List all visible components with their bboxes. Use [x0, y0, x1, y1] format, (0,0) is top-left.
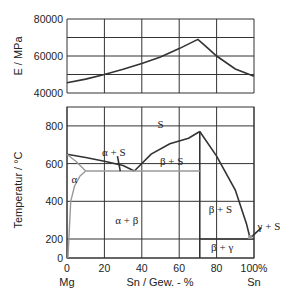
phase-region-label: γ + S	[257, 220, 281, 232]
phase-region-label: β + S	[160, 155, 183, 167]
x-tick-label: 80	[211, 262, 223, 274]
chart-canvas: 400006000080000 020406080100%02004006008…	[0, 0, 289, 305]
y-tick-label: 80000	[34, 13, 63, 25]
y-axis-label-temperature: Temperatur / °C	[12, 151, 24, 228]
y-tick-label: 60000	[34, 50, 63, 62]
phase-region-label: α + S	[102, 146, 126, 158]
phase-region-label: α	[72, 173, 78, 185]
y-tick-label: 200	[45, 233, 63, 245]
modulus-plot: 400006000080000	[34, 13, 254, 99]
y-tick-label: 400	[45, 195, 63, 207]
x-tick-label: 60	[173, 262, 185, 274]
x-tick-label: 100%	[241, 262, 268, 274]
liquidus-right-line	[200, 132, 250, 239]
x-axis-left-element-label: Mg	[59, 276, 74, 288]
x-tick-label: 40	[136, 262, 148, 274]
phase-region-label: β + S	[209, 203, 232, 215]
y-tick-label: 0	[57, 252, 63, 264]
x-tick-label: 0	[64, 262, 70, 274]
x-axis-right-element-label: Sn	[247, 276, 260, 288]
y-tick-label: 600	[45, 158, 63, 170]
gamma-region-marker	[248, 235, 252, 239]
phase-region-label: S	[157, 118, 163, 130]
phase-region-label: α + β	[115, 214, 138, 226]
phase-diagram-plot: 020406080100%0200400600800Sα + Sβ + Sαα …	[45, 107, 280, 274]
x-tick-label: 20	[99, 262, 111, 274]
y-tick-label: 800	[45, 120, 63, 132]
phase-region-label: β + γ	[211, 241, 233, 253]
y-tick-label: 40000	[34, 87, 63, 99]
y-axis-label-modulus: E / MPa	[12, 36, 24, 76]
x-axis-label: Sn / Gew. - %	[126, 276, 193, 288]
modulus-curve	[67, 39, 254, 82]
